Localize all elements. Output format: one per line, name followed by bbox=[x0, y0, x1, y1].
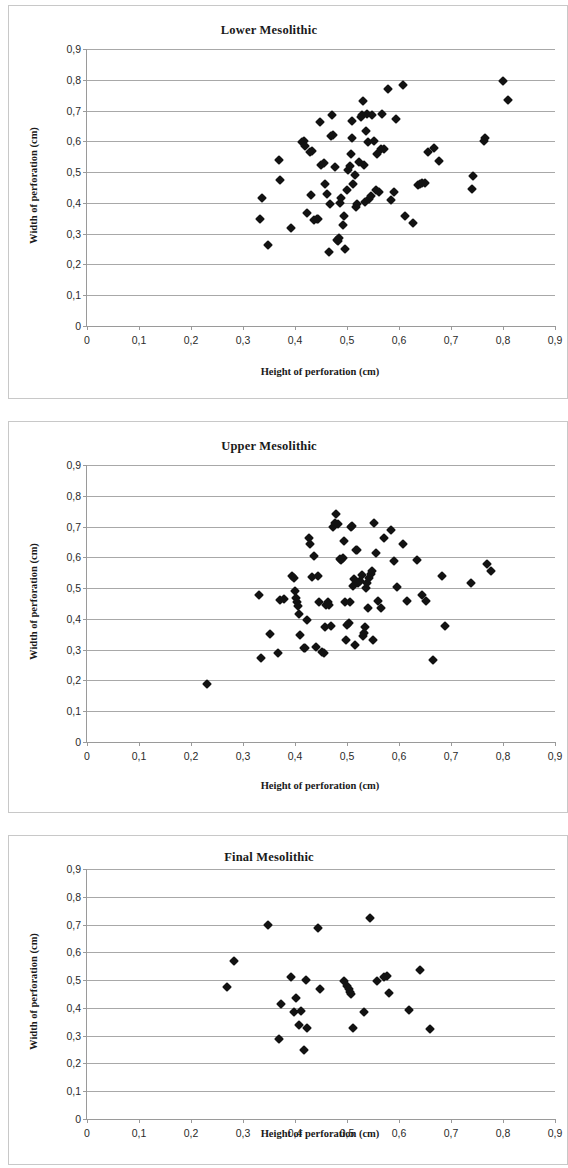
data-point-marker bbox=[327, 111, 337, 121]
data-point-marker bbox=[324, 247, 334, 257]
plot-area-2: 00,10,20,30,40,50,60,70,80,900,10,20,30,… bbox=[86, 869, 555, 1120]
data-point-marker bbox=[274, 155, 284, 165]
y-tick-mark bbox=[83, 557, 87, 558]
data-point-marker bbox=[300, 643, 310, 653]
x-tick-mark bbox=[555, 742, 556, 746]
y-tick-label: 0,2 bbox=[66, 258, 81, 270]
data-point-marker bbox=[286, 223, 296, 233]
y-tick-label: 0,3 bbox=[66, 644, 81, 656]
gridline-y bbox=[87, 897, 555, 898]
x-tick-mark bbox=[295, 742, 296, 746]
data-point-marker bbox=[503, 95, 513, 105]
y-tick-label: 0,4 bbox=[66, 1002, 81, 1014]
y-tick-label: 0,5 bbox=[66, 166, 81, 178]
gridline-y bbox=[87, 952, 555, 953]
y-tick-mark bbox=[83, 1036, 87, 1037]
data-point-marker bbox=[295, 630, 305, 640]
x-tick-mark bbox=[191, 1119, 192, 1123]
y-tick-mark bbox=[83, 111, 87, 112]
data-point-marker bbox=[383, 84, 393, 94]
data-point-marker bbox=[371, 548, 381, 558]
y-tick-label: 0,3 bbox=[66, 228, 81, 240]
data-point-marker bbox=[315, 984, 325, 994]
y-tick-label: 0,7 bbox=[66, 105, 81, 117]
data-point-marker bbox=[347, 116, 357, 126]
x-tick-label: 0 bbox=[84, 750, 90, 762]
y-tick-mark bbox=[83, 1091, 87, 1092]
y-tick-label: 0,9 bbox=[66, 459, 81, 471]
data-point-marker bbox=[361, 126, 371, 136]
data-point-marker bbox=[339, 536, 349, 546]
y-axis-title-0: Width of perforation (cm) bbox=[28, 47, 39, 324]
data-point-marker bbox=[263, 920, 273, 930]
data-point-marker bbox=[294, 609, 304, 619]
data-point-marker bbox=[348, 1023, 358, 1033]
y-tick-mark bbox=[83, 80, 87, 81]
gridline-y bbox=[87, 111, 555, 112]
data-point-marker bbox=[257, 193, 267, 203]
data-point-marker bbox=[331, 509, 341, 519]
x-tick-mark bbox=[503, 742, 504, 746]
gridline-y bbox=[87, 557, 555, 558]
y-tick-mark bbox=[83, 925, 87, 926]
data-point-marker bbox=[363, 603, 373, 613]
y-tick-mark bbox=[83, 897, 87, 898]
gridline-y bbox=[87, 203, 555, 204]
y-tick-mark bbox=[83, 234, 87, 235]
x-tick-mark bbox=[295, 1119, 296, 1123]
y-axis-title-1: Width of perforation (cm) bbox=[28, 463, 39, 740]
gridline-y bbox=[87, 264, 555, 265]
data-point-marker bbox=[301, 975, 311, 985]
data-point-marker bbox=[346, 989, 356, 999]
data-point-marker bbox=[303, 1023, 313, 1033]
y-tick-label: 0,4 bbox=[66, 613, 81, 625]
gridline-y bbox=[87, 527, 555, 528]
data-point-marker bbox=[408, 218, 418, 228]
x-tick-label: 0,7 bbox=[444, 750, 459, 762]
x-tick-mark bbox=[451, 326, 452, 330]
y-tick-label: 0 bbox=[75, 320, 81, 332]
y-tick-label: 0,2 bbox=[66, 674, 81, 686]
y-tick-mark bbox=[83, 869, 87, 870]
data-point-marker bbox=[391, 115, 401, 125]
data-point-marker bbox=[358, 96, 368, 106]
y-tick-mark bbox=[83, 650, 87, 651]
data-point-marker bbox=[437, 571, 447, 581]
x-tick-mark bbox=[555, 326, 556, 330]
y-tick-mark bbox=[83, 1063, 87, 1064]
chart-title-2: Final Mesolithic bbox=[9, 850, 529, 865]
x-tick-label: 0,8 bbox=[496, 750, 511, 762]
y-tick-mark bbox=[83, 295, 87, 296]
x-tick-label: 0,8 bbox=[496, 334, 511, 346]
data-point-marker bbox=[302, 615, 312, 625]
x-tick-label: 0,4 bbox=[288, 750, 303, 762]
data-point-marker bbox=[291, 993, 301, 1003]
data-point-marker bbox=[229, 956, 239, 966]
gridline-y bbox=[87, 80, 555, 81]
gridline-y bbox=[87, 49, 555, 50]
y-tick-label: 0,6 bbox=[66, 946, 81, 958]
y-tick-mark bbox=[83, 141, 87, 142]
data-point-marker bbox=[320, 179, 330, 189]
y-tick-label: 0,8 bbox=[66, 490, 81, 502]
x-tick-label: 0,5 bbox=[340, 334, 355, 346]
x-tick-mark bbox=[503, 1119, 504, 1123]
x-tick-label: 0 bbox=[84, 334, 90, 346]
x-tick-mark bbox=[139, 742, 140, 746]
y-tick-label: 0,2 bbox=[66, 1057, 81, 1069]
x-tick-mark bbox=[87, 326, 88, 330]
y-tick-label: 0,1 bbox=[66, 705, 81, 717]
data-point-marker bbox=[440, 621, 450, 631]
x-tick-mark bbox=[347, 326, 348, 330]
data-point-marker bbox=[340, 244, 350, 254]
data-point-marker bbox=[263, 240, 273, 250]
y-tick-mark bbox=[83, 527, 87, 528]
data-point-marker bbox=[398, 80, 408, 90]
data-point-marker bbox=[368, 635, 378, 645]
x-tick-label: 0,5 bbox=[340, 750, 355, 762]
data-point-marker bbox=[338, 220, 348, 230]
data-point-marker bbox=[222, 982, 232, 992]
gridline-y bbox=[87, 234, 555, 235]
gridline-y bbox=[87, 1008, 555, 1009]
y-tick-mark bbox=[83, 1008, 87, 1009]
